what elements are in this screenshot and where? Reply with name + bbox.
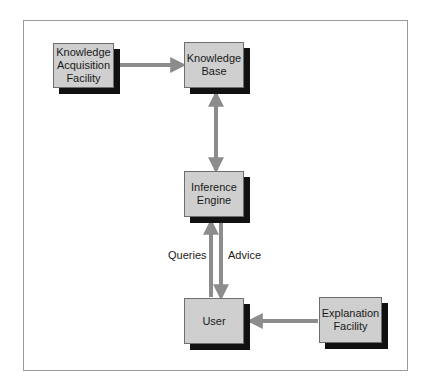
node-label: Knowledge Base [187,52,241,78]
node-label: Knowledge Acquisition Facility [56,46,110,85]
node-inference-engine: Inference Engine [184,171,244,217]
node-label: Explanation Facility [322,307,380,333]
node-label: Inference Engine [191,181,237,207]
node-explanation-facility: Explanation Facility [319,297,382,343]
node-knowledge-acquisition-facility: Knowledge Acquisition Facility [53,43,114,88]
node-user: User [184,298,244,344]
node-knowledge-base: Knowledge Base [184,42,244,88]
edge-label-advice: Advice [228,249,261,261]
edge-label-queries: Queries [168,249,207,261]
node-label: User [202,315,225,328]
